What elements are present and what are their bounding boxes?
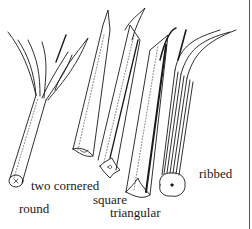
triangular-stem-drawing (126, 28, 176, 197)
right-frame-line (249, 0, 250, 229)
label-round: round (19, 202, 49, 215)
round-stem-drawing (8, 32, 88, 187)
label-two-cornered: two cornered (31, 179, 99, 192)
label-triangular: triangular (110, 206, 161, 219)
stem-shapes-illustration: two cornered round square triangular rib… (0, 0, 252, 229)
square-stem-drawing (98, 8, 145, 178)
label-ribbed: ribbed (199, 167, 232, 180)
